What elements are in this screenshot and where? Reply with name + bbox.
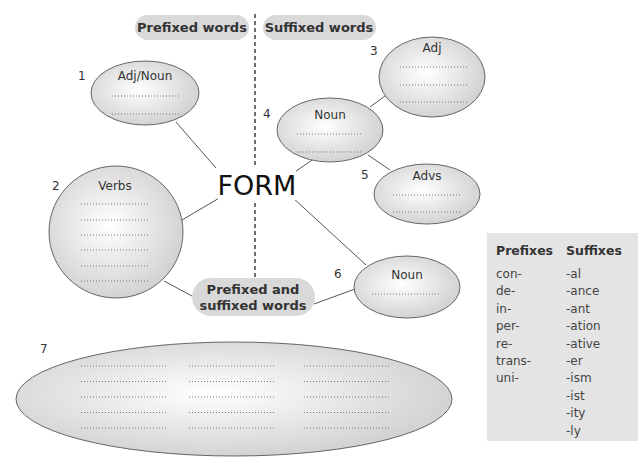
node-label: Adj/Noun <box>118 69 173 83</box>
prefix-item: in- <box>496 301 553 318</box>
node-label: Advs <box>413 169 442 183</box>
node-number: 7 <box>40 342 48 356</box>
node-label: Verbs <box>98 179 131 193</box>
node-3-adj: 3 Adj <box>370 37 485 117</box>
prefix-item: trans- <box>496 353 553 370</box>
suffixes-list: -al-ance-ant-ation-ative-er-ism-ist-ity-… <box>566 266 622 440</box>
both-label-line1: Prefixed and <box>207 282 300 297</box>
center-word: FORM <box>218 170 297 201</box>
connector-2-both <box>164 281 192 296</box>
suffix-item: -ation <box>566 318 622 335</box>
node-number: 2 <box>52 179 60 193</box>
suffix-item: -ance <box>566 283 622 300</box>
node-label: Noun <box>391 268 423 282</box>
prefixed-and-suffixed-header: Prefixed and suffixed words <box>192 278 315 316</box>
node-label: Noun <box>314 108 346 122</box>
node-7: 7 <box>16 342 452 456</box>
node-number: 6 <box>334 267 342 281</box>
affix-table: Prefixes con-de-in-per-re-trans-uni- Suf… <box>487 233 638 441</box>
prefix-item: de- <box>496 283 553 300</box>
node-number: 4 <box>263 107 271 121</box>
connector-6 <box>292 197 366 265</box>
prefixes-header: Prefixes <box>496 243 553 258</box>
suffix-item: -ism <box>566 370 622 387</box>
suffix-item: -ant <box>566 301 622 318</box>
suffixed-words-label: Suffixed words <box>265 20 374 35</box>
suffix-item: -ly <box>566 423 622 440</box>
both-label-line2: suffixed words <box>200 298 307 313</box>
node-label: Adj <box>423 41 442 55</box>
node-1-adj-noun: 1 Adj/Noun <box>78 61 199 125</box>
prefixed-words-label: Prefixed words <box>137 20 247 35</box>
connector-both-6 <box>314 289 355 304</box>
node-number: 3 <box>370 44 378 58</box>
node-6-noun: 6 Noun <box>334 256 460 318</box>
node-5-advs: 5 Advs <box>361 164 480 224</box>
suffix-item: -ative <box>566 336 622 353</box>
connector-5 <box>368 155 390 170</box>
prefix-item: re- <box>496 336 553 353</box>
node-number: 5 <box>361 168 369 182</box>
node-2-verbs: 2 Verbs <box>49 166 183 298</box>
prefix-item: uni- <box>496 370 553 387</box>
suffix-item: -ist <box>566 388 622 405</box>
suffix-item: -al <box>566 266 622 283</box>
prefix-item: per- <box>496 318 553 335</box>
node-number: 1 <box>78 69 86 83</box>
connector-3 <box>370 96 385 107</box>
prefixes-column: Prefixes con-de-in-per-re-trans-uni- <box>496 243 553 388</box>
suffixes-header: Suffixes <box>566 243 622 258</box>
node-4-noun: 4 Noun <box>263 98 383 162</box>
suffix-item: -er <box>566 353 622 370</box>
prefixed-words-header: Prefixed words <box>135 15 249 40</box>
suffix-item: -ity <box>566 405 622 422</box>
connector-2 <box>182 197 221 220</box>
prefixes-list: con-de-in-per-re-trans-uni- <box>496 266 553 388</box>
suffixed-words-header: Suffixed words <box>263 15 376 40</box>
prefix-item: con- <box>496 266 553 283</box>
connector-1 <box>176 122 216 168</box>
suffixes-column: Suffixes -al-ance-ant-ation-ative-er-ism… <box>566 243 622 440</box>
